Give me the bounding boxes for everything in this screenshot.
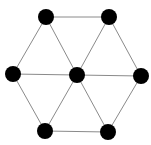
edge-left-bottom-left	[13, 74, 45, 131]
edge-center-right	[77, 75, 141, 76]
edge-center-bottom-left	[45, 75, 77, 131]
node-center	[69, 67, 85, 83]
edge-left-center	[13, 74, 77, 75]
node-right	[133, 68, 149, 84]
edge-center-bottom-right	[77, 75, 108, 132]
edge-top-left-left	[13, 17, 46, 74]
edge-right-bottom-right	[108, 76, 141, 132]
node-top-left	[38, 9, 54, 25]
node-bottom-left	[37, 123, 53, 139]
node-bottom-right	[100, 124, 116, 140]
node-top-right	[101, 9, 117, 25]
node-left	[5, 66, 21, 82]
edge-top-right-right	[109, 17, 141, 76]
hexagonal-wheel-graph	[0, 0, 151, 145]
edge-bottom-left-bottom-right	[45, 131, 108, 132]
edge-top-right-center	[77, 17, 109, 75]
edge-top-left-center	[46, 17, 77, 75]
